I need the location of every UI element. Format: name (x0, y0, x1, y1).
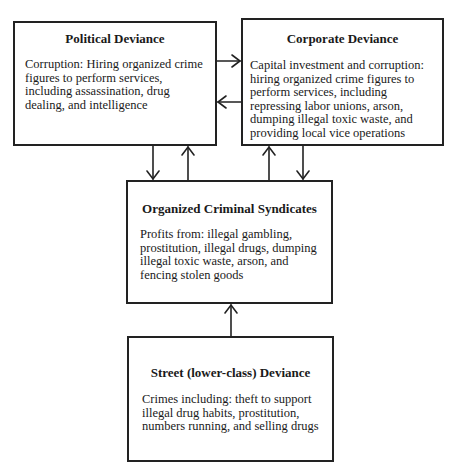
arrow-street-to-organized (225, 305, 237, 336)
connector-arrows (0, 0, 458, 475)
arrow-corporate-to-organized (297, 146, 309, 179)
arrow-organized-to-corporate (263, 147, 275, 180)
arrow-corporate-to-political (218, 96, 241, 108)
arrow-political-to-organized (147, 146, 159, 179)
arrow-political-to-corporate (217, 55, 240, 67)
arrow-organized-to-political (182, 147, 194, 180)
